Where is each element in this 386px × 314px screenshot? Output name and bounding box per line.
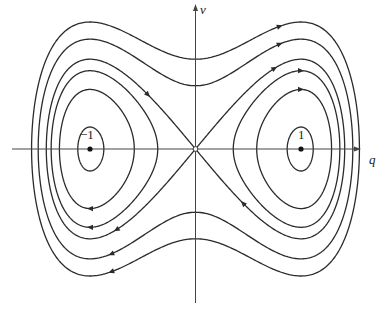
flow-arrow-icon — [298, 87, 304, 92]
tick-label-one: 1 — [298, 128, 305, 141]
flow-arrow-icon — [108, 268, 115, 273]
phase-portrait-plot — [0, 0, 386, 314]
saddle-point-icon — [193, 147, 198, 152]
flow-arrow-icon — [87, 206, 93, 211]
flow-arrow-icon — [114, 226, 120, 231]
phase-portrait: v q −1 1 — [0, 0, 386, 314]
center-point-icon — [87, 146, 92, 151]
tick-label-minus-one: −1 — [80, 128, 94, 141]
flow-arrow-icon — [271, 67, 277, 72]
x-axis-label: q — [369, 153, 376, 166]
flow-arrow-icon — [298, 68, 304, 73]
v-axis-arrow-icon — [193, 4, 198, 11]
flow-arrow-icon — [87, 225, 93, 230]
center-point-icon — [298, 146, 303, 151]
flow-arrow-icon — [276, 25, 283, 30]
y-axis-label: v — [200, 3, 206, 16]
